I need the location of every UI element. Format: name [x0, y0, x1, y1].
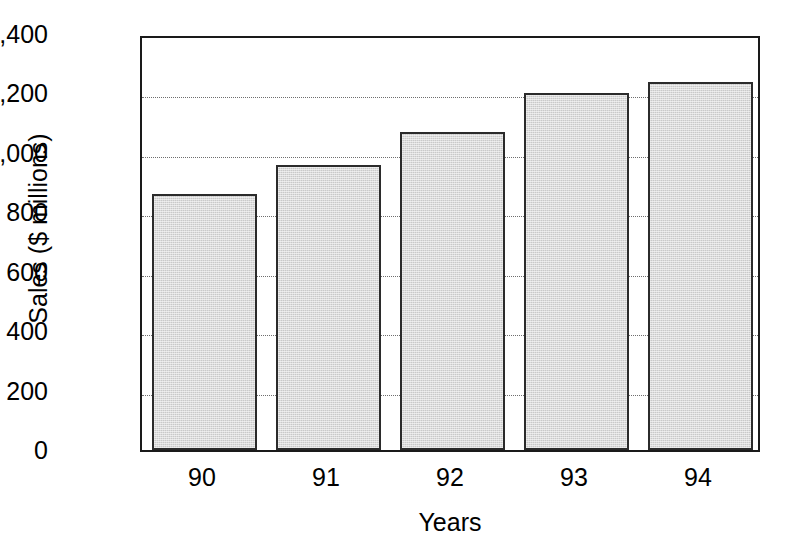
- bar: [648, 82, 753, 450]
- bar: [152, 194, 257, 450]
- y-axis-tick-label-text: 1,200: [0, 79, 48, 108]
- x-axis-tick-label: 93: [560, 463, 588, 492]
- y-axis-tick-label-text: 1,000: [0, 139, 48, 168]
- x-axis-tick-label: 91: [312, 463, 340, 492]
- bar-chart: Sales ($ millions) 02004006008001,0001,2…: [0, 0, 791, 554]
- y-axis-tick-label-text: 400: [6, 317, 48, 346]
- x-axis-title: Years: [140, 508, 760, 537]
- y-axis-tick-label-text: 0: [34, 436, 48, 465]
- bar: [400, 132, 505, 450]
- y-axis-tick-label-text: 200: [6, 377, 48, 406]
- y-axis-tick-label-text: 600: [6, 258, 48, 287]
- x-axis-tick-label: 90: [188, 463, 216, 492]
- bar: [276, 165, 381, 450]
- x-axis-tick-label: 94: [684, 463, 712, 492]
- x-axis-tick-label: 92: [436, 463, 464, 492]
- bar: [524, 93, 629, 450]
- y-axis-tick-label-text: 1,400: [0, 20, 48, 49]
- y-axis-tick-label-text: 800: [6, 198, 48, 227]
- plot-area: [140, 36, 760, 452]
